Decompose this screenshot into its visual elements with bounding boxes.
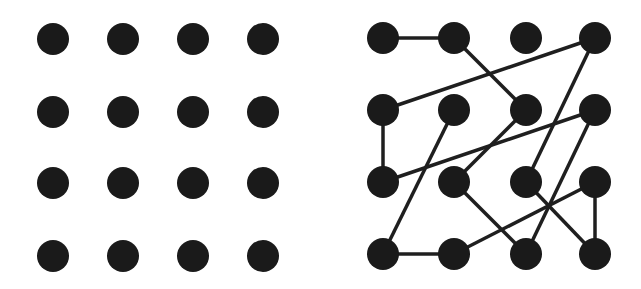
left-dot-r3-c3	[247, 240, 279, 272]
right-dot-r1-c3	[579, 94, 611, 126]
right-dot-r2-c3	[579, 166, 611, 198]
left-dot-r1-c0	[37, 96, 69, 128]
left-dot-r2-c0	[37, 167, 69, 199]
right-dot-r1-c1	[438, 94, 470, 126]
left-dot-grid	[37, 23, 279, 272]
left-dot-r3-c1	[107, 240, 139, 272]
right-dot-r2-c2	[510, 166, 542, 198]
left-dot-r2-c3	[247, 167, 279, 199]
edge-7	[383, 110, 595, 182]
right-dot-r0-c3	[579, 22, 611, 54]
right-dot-r0-c2	[510, 22, 542, 54]
left-dot-r1-c2	[177, 96, 209, 128]
left-dot-r1-c1	[107, 96, 139, 128]
left-dot-r2-c1	[107, 167, 139, 199]
right-dot-r0-c1	[438, 22, 470, 54]
left-dot-r0-c3	[247, 23, 279, 55]
left-dot-r1-c3	[247, 96, 279, 128]
left-dot-r3-c2	[177, 240, 209, 272]
right-dot-r1-c2	[510, 94, 542, 126]
right-dot-r3-c2	[510, 238, 542, 270]
right-dot-r2-c1	[438, 166, 470, 198]
left-dot-r3-c0	[37, 240, 69, 272]
dot-grid-diagram	[0, 0, 641, 289]
right-dot-r3-c0	[367, 238, 399, 270]
left-dot-r0-c1	[107, 23, 139, 55]
right-dot-r3-c1	[438, 238, 470, 270]
left-dot-r2-c2	[177, 167, 209, 199]
right-dot-r1-c0	[367, 94, 399, 126]
right-dot-r3-c3	[579, 238, 611, 270]
left-dot-r0-c2	[177, 23, 209, 55]
edge-2	[383, 38, 595, 110]
left-dot-r0-c0	[37, 23, 69, 55]
right-grid-edges	[383, 38, 595, 254]
right-dot-r2-c0	[367, 166, 399, 198]
right-dot-r0-c0	[367, 22, 399, 54]
